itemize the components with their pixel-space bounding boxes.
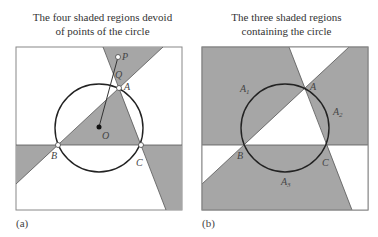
point-p	[116, 55, 121, 60]
panel-b-tag: (b)	[202, 217, 215, 229]
label-c: C	[136, 157, 143, 168]
point-c	[139, 143, 144, 148]
diagram-canvas: P Q A O B C A B C A1 A2 A3	[0, 0, 378, 237]
label-a-b: A	[309, 81, 317, 92]
label-a: A	[123, 81, 131, 92]
label-o: O	[102, 130, 109, 141]
label-c-b: C	[322, 157, 329, 168]
label-b: B	[51, 150, 57, 161]
point-o	[97, 125, 102, 130]
label-b-b: B	[237, 150, 243, 161]
point-a	[117, 86, 122, 91]
point-b	[56, 143, 61, 148]
panel-a: P Q A O B C	[16, 47, 182, 210]
label-p: P	[121, 51, 128, 62]
panel-b: A B C A1 A2 A3	[202, 47, 368, 210]
label-q: Q	[115, 69, 123, 80]
panel-a-tag: (a)	[16, 217, 28, 229]
